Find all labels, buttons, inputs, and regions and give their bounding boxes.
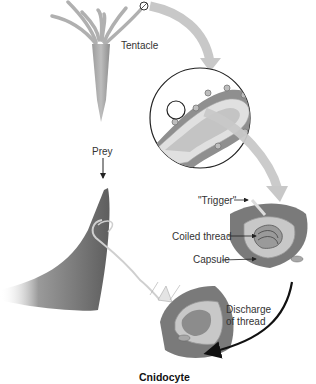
- diagram-title: Cnidocyte: [139, 371, 190, 383]
- label-discharge-line2: of thread: [226, 316, 265, 327]
- magnify-arrow-1: [150, 6, 210, 62]
- label-tentacle: Tentacle: [121, 40, 158, 51]
- hydra-icon: [52, 2, 148, 122]
- label-trigger: "Trigger": [198, 195, 236, 206]
- label-discharge-line1: Discharge: [226, 304, 271, 315]
- label-coiled-thread: Coiled thread: [172, 231, 231, 242]
- cnidocyte-diagram: Tentacle Prey "Trigger" Coiled thread Ca…: [0, 0, 316, 384]
- label-prey: Prey: [92, 146, 113, 157]
- label-capsule: Capsule: [193, 254, 230, 265]
- magnified-tissue: [150, 68, 259, 175]
- cnidocyte-coiled: [230, 200, 308, 268]
- cnidocyte-discharged: [150, 282, 234, 358]
